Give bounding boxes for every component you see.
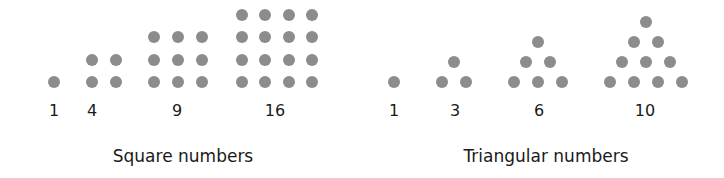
dot xyxy=(544,56,556,68)
dot xyxy=(86,54,98,66)
dot xyxy=(283,31,295,43)
dot xyxy=(676,76,688,88)
dot xyxy=(306,76,318,88)
dot xyxy=(640,56,652,68)
dot xyxy=(236,9,248,21)
dot xyxy=(652,76,664,88)
dot xyxy=(196,54,208,66)
dot xyxy=(172,31,184,43)
dot xyxy=(532,76,544,88)
figurate-numbers-diagram: 1 4 9 16 Square numbers 1 3 6 10 Triangu… xyxy=(0,0,724,178)
dot xyxy=(259,9,271,21)
dot xyxy=(628,36,640,48)
dot xyxy=(388,76,400,88)
dot xyxy=(306,54,318,66)
dot xyxy=(616,56,628,68)
dot xyxy=(148,76,160,88)
square-label-16: 16 xyxy=(265,103,285,119)
dot xyxy=(259,31,271,43)
dot xyxy=(436,76,448,88)
dot xyxy=(148,54,160,66)
dot xyxy=(640,16,652,28)
dot xyxy=(110,54,122,66)
dot xyxy=(283,76,295,88)
dot xyxy=(652,36,664,48)
square-label-1: 1 xyxy=(49,103,59,119)
triangular-label-3: 3 xyxy=(450,103,460,119)
dot xyxy=(532,36,544,48)
dot xyxy=(196,76,208,88)
dot xyxy=(86,76,98,88)
triangular-label-6: 6 xyxy=(534,103,544,119)
dot xyxy=(236,31,248,43)
dot xyxy=(196,31,208,43)
square-label-9: 9 xyxy=(172,103,182,119)
square-label-4: 4 xyxy=(87,103,97,119)
dot xyxy=(259,76,271,88)
dot xyxy=(110,76,122,88)
dot xyxy=(283,9,295,21)
dot xyxy=(172,76,184,88)
triangular-numbers-caption: Triangular numbers xyxy=(463,148,628,165)
dot xyxy=(628,76,640,88)
dot xyxy=(448,56,460,68)
dot xyxy=(236,54,248,66)
dot xyxy=(283,54,295,66)
dot xyxy=(664,56,676,68)
square-numbers-caption: Square numbers xyxy=(113,148,253,165)
triangular-label-1: 1 xyxy=(389,103,399,119)
dot xyxy=(556,76,568,88)
dot xyxy=(172,54,184,66)
dot xyxy=(236,76,248,88)
dot xyxy=(306,31,318,43)
triangular-label-10: 10 xyxy=(635,103,655,119)
dot xyxy=(148,31,160,43)
dot xyxy=(508,76,520,88)
dot xyxy=(520,56,532,68)
dot xyxy=(306,9,318,21)
dot xyxy=(48,76,60,88)
dot xyxy=(604,76,616,88)
dot xyxy=(259,54,271,66)
dot xyxy=(460,76,472,88)
